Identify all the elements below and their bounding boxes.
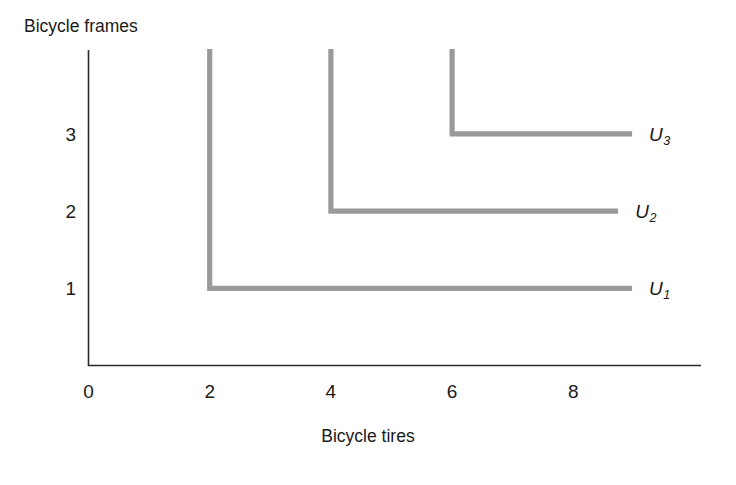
y-tick-label-3: 3 [50, 124, 76, 143]
curve-label-u2: U2 [635, 202, 656, 221]
chart-plot-area [0, 0, 736, 485]
axis-lines [89, 50, 702, 366]
x-tick-label-4: 4 [326, 382, 337, 401]
curve-label-subscript: 3 [663, 133, 670, 147]
curve-label-base: U [649, 123, 663, 144]
x-tick-label-2: 2 [204, 382, 215, 401]
indifference-curve-u3 [452, 49, 632, 134]
x-tick-label-8: 8 [568, 382, 579, 401]
curve-label-subscript: 1 [663, 288, 670, 302]
indifference-curve-u1 [210, 49, 632, 288]
curve-label-u1: U1 [649, 279, 670, 298]
y-axis-title: Bicycle frames [24, 18, 138, 36]
x-tick-label-0: 0 [83, 382, 94, 401]
curve-label-u3: U3 [649, 124, 670, 143]
y-tick-label-2: 2 [50, 202, 76, 221]
chart-container: Bicycle frames Bicycle tires 02468 123 U… [0, 0, 736, 485]
x-tick-label-6: 6 [447, 382, 458, 401]
curve-label-subscript: 2 [649, 211, 656, 225]
curve-label-base: U [649, 278, 663, 299]
indifference-curve-u2 [331, 49, 618, 211]
y-tick-label-1: 1 [50, 279, 76, 298]
x-axis-title: Bicycle tires [0, 428, 736, 446]
curve-label-base: U [635, 201, 649, 222]
